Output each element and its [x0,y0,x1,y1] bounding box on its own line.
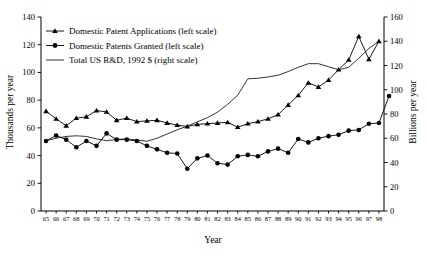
x-axis-tick-label: 78 [174,215,180,222]
right-axis-tick-label: 140 [390,36,403,46]
left-axis-tick-label: 140 [22,12,35,22]
x-axis-tick-label: 75 [144,215,150,222]
data-point-circle [266,149,271,154]
data-point-circle [155,147,160,152]
x-axis-tick-label: 74 [134,215,141,222]
right-axis-tick-label: 160 [390,12,403,22]
x-axis-tick-label: 69 [83,215,89,222]
x-axis-tick-label: 91 [305,215,311,222]
data-point-circle [84,139,89,144]
x-axis-tick-label: 92 [315,215,321,222]
x-axis-tick-label: 67 [63,215,70,222]
x-axis-tick-label: 97 [366,215,373,222]
data-point-circle [145,144,150,149]
x-axis-tick-label: 65 [43,215,49,222]
right-axis-tick-label: 20 [390,182,399,192]
left-axis-tick-label: 120 [22,40,35,50]
chart-legend: Domestic Patent Applications (left scale… [46,26,216,65]
data-point-circle [215,161,220,166]
data-point-circle [296,137,301,142]
data-point-circle [276,146,281,151]
legend-entry-label: Domestic Patent Applications (left scale… [69,26,216,36]
data-point-circle [124,137,129,142]
x-axis-tick-label: 93 [325,215,331,222]
x-axis-tick-label: 89 [285,215,291,222]
data-point-circle [326,134,331,139]
data-point-circle [165,151,170,156]
left-axis-tick-label: 40 [27,151,36,161]
data-point-circle [175,151,180,156]
x-axis-tick-label: 70 [93,215,99,222]
x-axis-tick-label: 73 [124,215,130,222]
patents-rd-line-chart: 020406080100120140 020406080100120140160… [0,0,427,256]
legend-entry-label: Domestic Patents Granted (left scale) [69,41,203,51]
x-axis-tick-label: 72 [113,215,119,222]
data-point-circle [316,136,321,141]
data-point-circle [306,140,311,145]
x-axis-tick-label: 84 [235,215,242,222]
data-point-circle [286,151,291,156]
x-axis-tick-label: 86 [255,215,261,222]
data-point-circle [246,153,251,158]
left-axis-tick-label: 80 [27,95,36,105]
x-axis-tick-label: 68 [73,215,79,222]
x-axis-tick-label: 76 [154,215,160,222]
data-point-circle [185,166,190,171]
right-axis-tick-label: 100 [390,85,403,95]
x-axis-tick-label: 82 [214,215,220,222]
right-axis-tick-label: 120 [390,61,403,71]
y2-axis-title: Billions per year [408,80,418,144]
x-axis-tick-label: 83 [224,215,230,222]
data-point-circle [54,133,59,138]
x-axis-tick-label: 94 [335,215,342,222]
x-axis-tick-label: 85 [245,215,251,222]
x-axis-tick-label: 81 [204,215,210,222]
data-point-circle [104,131,109,136]
x-axis-tick-label: 79 [184,215,190,222]
data-point-circle [44,139,49,144]
right-axis-tick-label: 0 [390,206,394,216]
x-axis-tick-label: 87 [265,215,272,222]
left-axis-tick-label: 60 [27,123,36,133]
right-axis-tick-label: 80 [390,109,399,119]
right-axis-tick-label: 40 [390,158,399,168]
data-point-circle [256,154,261,159]
data-point-circle [346,128,351,133]
data-point-circle [336,132,341,137]
data-point-circle [74,145,79,150]
data-point-circle [387,94,392,99]
chart-figure: 020406080100120140 020406080100120140160… [0,0,427,256]
x-axis-tick-label: 71 [103,215,109,222]
left-axis-tick-label: 0 [31,206,35,216]
x-axis-tick-label: 77 [164,215,171,222]
x-axis-tick-label: 98 [376,215,382,222]
data-point-circle [94,144,99,149]
x-axis-title: Year [204,235,222,245]
y-axis-title: Thousands per year [5,74,15,149]
x-axis-tick-label: 95 [345,215,351,222]
left-axis-tick-label: 20 [27,178,36,188]
data-point-circle [205,153,210,158]
data-point-circle [356,128,361,133]
data-point-circle [225,162,230,167]
x-axis-tick-label: 90 [295,215,301,222]
data-point-circle [235,154,240,159]
x-axis-tick-label: 66 [53,215,59,222]
data-point-circle [64,137,69,142]
left-axis-tick-label: 100 [22,67,35,77]
data-point-circle [135,139,140,144]
data-point-circle [195,156,200,161]
x-axis-tick-label: 80 [194,215,200,222]
legend-marker-circle [53,43,58,48]
data-point-circle [377,121,382,126]
data-point-circle [367,121,372,126]
right-axis-tick-label: 60 [390,133,399,143]
x-axis-tick-label: 96 [356,215,362,222]
legend-entry-label: Total US R&D, 1992 $ (right scale) [69,55,198,65]
x-axis-tick-label: 88 [275,215,281,222]
